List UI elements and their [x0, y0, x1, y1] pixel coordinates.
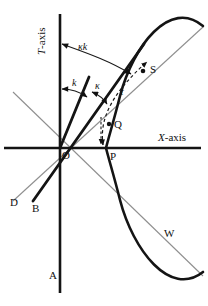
origin-label-O: O — [62, 150, 70, 161]
curve-label-tau: τ — [120, 87, 124, 97]
point-marker-Q — [107, 122, 111, 126]
diagram-canvas — [0, 0, 208, 306]
t-axis-label: T-axis — [36, 27, 47, 55]
x-axis-label-italic: X — [158, 131, 165, 143]
angle-label-k: k — [72, 78, 76, 88]
point-label-S: S — [150, 64, 156, 75]
angle-arc-kappa-k — [62, 44, 131, 74]
point-label-P: P — [110, 151, 116, 162]
worldline-line-OB — [33, 44, 144, 201]
t-axis-label-rest: -axis — [35, 27, 47, 48]
angle-label-kappa-k: κk — [78, 42, 87, 52]
point-label-D: D — [10, 197, 18, 208]
asymptote-line-conjugate — [13, 92, 203, 276]
x-axis-label-rest: -axis — [165, 131, 186, 143]
point-label-Q: Q — [114, 119, 122, 130]
point-marker-S — [141, 69, 146, 74]
x-axis-label: X-axis — [158, 132, 186, 143]
point-label-A: A — [49, 270, 57, 281]
point-label-W: W — [164, 228, 174, 239]
minkowski-diagram-figure: T-axis X-axis κk k κ τ S Q P W A B D O — [0, 0, 208, 306]
angle-label-kappa: κ — [95, 81, 100, 91]
t-axis-label-italic: T — [35, 49, 47, 55]
point-label-B: B — [32, 203, 39, 214]
